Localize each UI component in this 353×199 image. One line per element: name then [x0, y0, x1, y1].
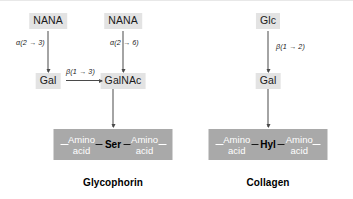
amino-acid-left-collagen: Amino acid: [223, 134, 250, 156]
amino-acid-left-glycophorin: Amino acid: [68, 134, 95, 156]
sugar-chip-nana-right: NANA: [104, 13, 142, 29]
caption-collagen: Collagen: [246, 177, 289, 188]
peptide-bond-left-of-hyl: [251, 144, 258, 145]
peptide-bond-right-terminus: [158, 144, 166, 145]
linkage-label-glc-to-gal: β(1 → 2): [276, 42, 305, 51]
caption-glycophorin: Glycophorin: [83, 177, 143, 188]
linkage-label-gal-to-galnac: β(1 → 3): [66, 67, 95, 76]
peptide-bond-left-terminus: [60, 144, 68, 145]
arrow-glc-to-gal: [268, 31, 269, 72]
arrow-gal-to-galnac: [66, 80, 102, 81]
sugar-chip-nana-left: NANA: [29, 13, 67, 29]
attachment-residue-hyl: Hyl: [259, 139, 277, 150]
glycosylation-diagram: NANA NANA α(2 → 3) α(2 → 6) Gal GalNAc β…: [0, 0, 353, 199]
amino-acid-right-glycophorin: Amino acid: [131, 134, 158, 156]
peptide-bond-right-terminus-collagen: [313, 144, 321, 145]
amino-acid-right-collagen: Amino acid: [286, 134, 313, 156]
peptide-bond-left-terminus-collagen: [215, 144, 223, 145]
linkage-label-nana-right-to-galnac: α(2 → 6): [110, 38, 139, 47]
sugar-chip-gal-glycophorin: Gal: [36, 73, 61, 89]
attachment-residue-ser: Ser: [104, 139, 122, 150]
peptide-backbone-bar-collagen: Amino acid Hyl Amino acid: [209, 129, 328, 160]
peptide-backbone-bar-glycophorin: Amino acid Ser Amino acid: [54, 129, 173, 160]
arrow-galnac-to-ser: [113, 89, 114, 127]
sugar-chip-gal-collagen: Gal: [256, 73, 281, 89]
peptide-bond-left-of-ser: [96, 144, 103, 145]
peptide-bond-right-of-hyl: [278, 144, 285, 145]
arrow-gal-to-hyl: [268, 89, 269, 127]
sugar-chip-glc: Glc: [256, 13, 280, 29]
arrow-nana-left-to-gal: [48, 31, 49, 72]
linkage-label-nana-left-to-gal: α(2 → 3): [16, 38, 45, 47]
peptide-bond-right-of-ser: [123, 144, 130, 145]
sugar-chip-galnac: GalNAc: [101, 73, 146, 89]
